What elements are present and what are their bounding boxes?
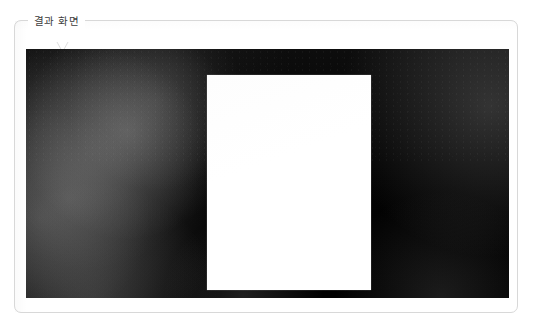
panel-legend-label: 결과 화면 — [28, 12, 85, 30]
white-sheet-surface — [207, 75, 371, 290]
result-panel: 결과 화면 결과 화면 — [14, 20, 518, 313]
white-sheet — [207, 75, 371, 290]
result-photograph: 결과 화면 — [26, 49, 509, 298]
caret-mark-icon — [56, 38, 69, 49]
